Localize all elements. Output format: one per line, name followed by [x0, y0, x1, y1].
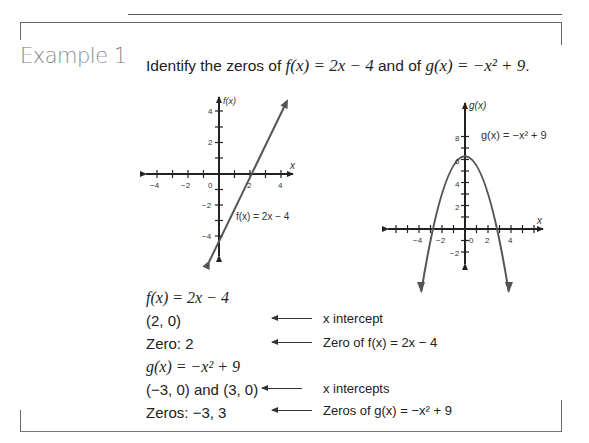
work-line-intercepts: (−3, 0) and (3, 0)	[146, 381, 258, 398]
note-x-intercepts: x intercepts	[323, 381, 389, 396]
arrow-left-icon	[262, 388, 302, 389]
work-line-zeros: Zeros: −3, 3	[146, 404, 226, 421]
g-x-axis-label: x	[536, 215, 543, 226]
arrow-left-icon	[272, 342, 312, 343]
svg-text:4: 4	[455, 180, 460, 189]
svg-text:8: 8	[455, 134, 460, 143]
svg-text:6: 6	[455, 157, 460, 166]
svg-text:−4: −4	[413, 236, 423, 245]
svg-text:4: 4	[508, 236, 513, 245]
work-line-intercept: (2, 0)	[146, 312, 181, 329]
work-line-f: f(x) = 2x − 4	[146, 289, 229, 307]
work-line-zero: Zero: 2	[146, 335, 194, 352]
arrow-left-icon	[272, 410, 312, 411]
work-line-g: g(x) = −x² + 9	[146, 358, 240, 376]
svg-text:−2: −2	[450, 249, 460, 258]
g-y-axis-label: g(x)	[469, 100, 486, 111]
g-curve-label: g(x) = −x² + 9	[481, 129, 547, 141]
graph-g: g(x) x −4 −2 0 2 4 8 6 4 2 −2 g(x) = −x²…	[0, 0, 589, 443]
svg-text:2: 2	[485, 236, 490, 245]
note-zeros-of-g: Zeros of g(x) = −x² + 9	[323, 403, 452, 418]
svg-text:−2: −2	[436, 236, 446, 245]
svg-text:0: 0	[469, 236, 474, 245]
svg-text:2: 2	[455, 203, 460, 212]
arrow-left-icon	[272, 318, 312, 319]
note-x-intercept: x intercept	[323, 311, 383, 326]
note-zero-of-f: Zero of f(x) = 2x − 4	[323, 335, 437, 350]
